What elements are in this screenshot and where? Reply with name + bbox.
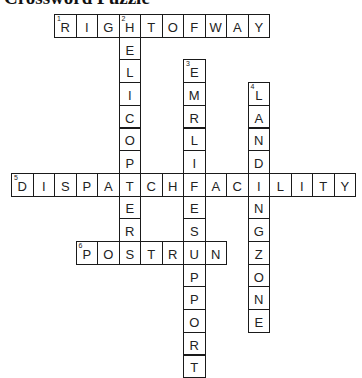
cell-letter: R <box>190 109 199 125</box>
cell-letter: N <box>254 199 263 215</box>
cell-letter: H <box>125 18 134 34</box>
crossword-cell[interactable]: G <box>248 218 271 242</box>
crossword-cell[interactable]: U <box>183 241 206 265</box>
crossword-cell[interactable]: N <box>248 286 271 310</box>
crossword-cell[interactable]: M <box>183 82 206 106</box>
crossword-cell[interactable]: I <box>33 173 56 197</box>
crossword-cell[interactable]: C <box>226 173 249 197</box>
crossword-cell[interactable]: 1R <box>54 14 77 38</box>
cell-letter: E <box>254 313 263 329</box>
cell-letter: T <box>319 177 327 193</box>
crossword-cell[interactable]: O <box>97 241 120 265</box>
cell-letter: S <box>61 177 70 193</box>
crossword-cell[interactable]: A <box>248 105 271 129</box>
crossword-cell[interactable]: E <box>183 196 206 220</box>
crossword-cell[interactable]: N <box>205 241 228 265</box>
crossword-cell[interactable]: E <box>248 309 271 333</box>
crossword-cell[interactable]: F <box>183 173 206 197</box>
cell-letter: A <box>104 177 113 193</box>
crossword-cell[interactable]: C <box>140 173 163 197</box>
crossword-cell[interactable]: 2H <box>119 14 142 38</box>
crossword-cell[interactable]: P <box>183 264 206 288</box>
cell-letter: T <box>147 18 155 34</box>
cell-letter: P <box>190 290 199 306</box>
crossword-cell[interactable]: O <box>162 14 185 38</box>
crossword-cell[interactable]: S <box>54 173 77 197</box>
cell-letter: E <box>190 199 199 215</box>
crossword-cell[interactable]: 6P <box>76 241 99 265</box>
crossword-cell[interactable]: P <box>76 173 99 197</box>
cell-letter: F <box>190 177 198 193</box>
crossword-cell[interactable]: 5D <box>11 173 34 197</box>
cell-letter: A <box>233 18 242 34</box>
crossword-cell[interactable]: E <box>119 196 142 220</box>
crossword-cell[interactable]: R <box>119 218 142 242</box>
cell-letter: R <box>125 222 134 238</box>
crossword-cell[interactable]: R <box>183 105 206 129</box>
crossword-cell[interactable]: A <box>97 173 120 197</box>
crossword-cell[interactable]: N <box>248 128 271 152</box>
crossword-cell[interactable]: S <box>183 218 206 242</box>
crossword-cell[interactable]: C <box>119 105 142 129</box>
crossword-cell[interactable]: 3E <box>183 59 206 83</box>
cell-letter: C <box>125 109 134 125</box>
crossword-cell[interactable]: Y <box>334 173 357 197</box>
crossword-cell[interactable]: L <box>119 59 142 83</box>
crossword-cell[interactable]: T <box>312 173 335 197</box>
cell-letter: T <box>126 177 134 193</box>
crossword-cell[interactable]: T <box>140 241 163 265</box>
crossword-cell[interactable]: I <box>291 173 314 197</box>
cell-letter: I <box>42 177 46 193</box>
cell-letter: C <box>147 177 156 193</box>
crossword-cell[interactable]: S <box>119 241 142 265</box>
cell-letter: N <box>254 290 263 306</box>
cell-letter: I <box>192 154 196 170</box>
crossword-cell[interactable]: R <box>183 332 206 356</box>
crossword-cell[interactable]: F <box>183 14 206 38</box>
cell-letter: M <box>189 86 200 102</box>
cell-letter: E <box>125 199 134 215</box>
crossword-cell[interactable]: O <box>248 264 271 288</box>
cell-letter: G <box>103 18 113 34</box>
cell-letter: L <box>277 177 284 193</box>
cell-letter: Y <box>254 18 263 34</box>
crossword-cell[interactable]: P <box>119 150 142 174</box>
crossword-cell[interactable]: T <box>183 355 206 378</box>
crossword-cell[interactable]: G <box>97 14 120 38</box>
crossword-cell[interactable]: Z <box>248 241 271 265</box>
crossword-cell[interactable]: L <box>269 173 292 197</box>
crossword-cell[interactable]: E <box>119 37 142 61</box>
crossword-cell[interactable]: T <box>140 14 163 38</box>
crossword-cell[interactable]: H <box>162 173 185 197</box>
cell-letter: P <box>190 268 199 284</box>
cell-letter: I <box>257 177 261 193</box>
crossword-cell[interactable]: L <box>183 128 206 152</box>
crossword-cell[interactable]: D <box>248 150 271 174</box>
crossword-cell[interactable]: N <box>248 196 271 220</box>
crossword-cell[interactable]: T <box>119 173 142 197</box>
cell-letter: H <box>168 177 177 193</box>
crossword-cell[interactable]: W <box>205 14 228 38</box>
crossword-cell[interactable]: O <box>183 309 206 333</box>
crossword-cell[interactable]: I <box>119 82 142 106</box>
crossword-cell[interactable]: Y <box>248 14 271 38</box>
cell-letter: O <box>254 268 264 284</box>
crossword-cell[interactable]: O <box>119 128 142 152</box>
cell-letter: D <box>18 177 27 193</box>
crossword-cell[interactable]: R <box>162 241 185 265</box>
crossword-cell[interactable]: I <box>76 14 99 38</box>
crossword-cell[interactable]: I <box>248 173 271 197</box>
cell-letter: L <box>126 63 133 79</box>
crossword-cell[interactable]: I <box>183 150 206 174</box>
crossword-cell[interactable]: 4L <box>248 82 271 106</box>
cell-letter: L <box>191 131 198 147</box>
clue-number: 1 <box>57 15 61 22</box>
cell-letter: F <box>190 18 198 34</box>
clue-number: 6 <box>79 242 83 249</box>
crossword-cell[interactable]: A <box>226 14 249 38</box>
cell-letter: L <box>255 86 262 102</box>
crossword-cell[interactable]: A <box>205 173 228 197</box>
cell-letter: P <box>82 245 91 261</box>
crossword-cell[interactable]: P <box>183 286 206 310</box>
cell-letter: I <box>128 86 132 102</box>
